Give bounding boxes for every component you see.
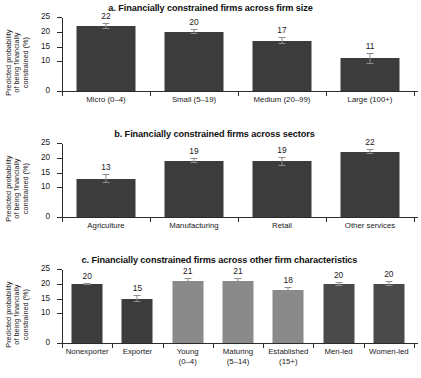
bar-value-label: 20 — [189, 17, 198, 27]
bar-value-label: 20 — [384, 269, 393, 279]
bar[interactable] — [323, 284, 354, 343]
panel-c: c. Financially constrained firms across … — [0, 252, 421, 378]
bar[interactable] — [253, 41, 312, 91]
panel-b-bars: 13191922 — [62, 144, 414, 218]
x-tick-label-line: Retail — [238, 221, 326, 231]
panel-a-y-axis-label-line-3: constrained (%) — [22, 11, 30, 115]
bar-group: 19 — [150, 143, 238, 217]
panel-b: b. Financially constrained firms across … — [0, 126, 421, 252]
panel-c-plot-area: 010152025 20152121182020 — [62, 270, 414, 344]
panel-b-y-tick-label-25: 25 — [41, 138, 50, 147]
x-tick-label-line: Other services — [326, 221, 414, 231]
bar-value-label: 17 — [277, 25, 286, 35]
bar-group: 20 — [62, 269, 112, 343]
x-tick-label-line: Small (5–19) — [150, 95, 238, 105]
bar-value-label: 21 — [233, 266, 242, 276]
error-bar — [191, 29, 198, 34]
bar[interactable] — [122, 299, 153, 343]
error-bar — [134, 295, 141, 302]
x-tick-label-line: Large (100+) — [326, 95, 414, 105]
bar[interactable] — [222, 281, 253, 343]
panel-a-y-tick-label-10: 10 — [41, 56, 50, 65]
bar[interactable] — [72, 284, 103, 343]
bar[interactable] — [165, 161, 224, 217]
bar[interactable] — [77, 179, 136, 217]
x-tick — [414, 344, 415, 348]
x-tick-label: Large (100+) — [326, 95, 414, 105]
bar-value-label: 19 — [277, 145, 286, 155]
bar-group: 20 — [313, 269, 363, 343]
panel-b-plot-area: 010152025 13191922 — [62, 144, 414, 218]
panel-c-y-tick-label-20: 20 — [41, 279, 50, 288]
error-bar — [84, 283, 91, 286]
bar-value-label: 21 — [183, 266, 192, 276]
x-tick-label-line: Exporter — [112, 347, 162, 357]
bar[interactable] — [341, 152, 400, 217]
error-bar — [103, 23, 110, 29]
panel-c-y-tick-label-0: 0 — [45, 338, 50, 347]
panel-a-plot-area: 010152025 22201711 — [62, 18, 414, 92]
x-tick-label-line: Medium (20–99) — [238, 95, 326, 105]
bar-group: 20 — [364, 269, 414, 343]
x-tick — [414, 92, 415, 96]
panel-b-y-axis-label: Predicted probability of being financial… — [5, 137, 30, 241]
panel-b-title: b. Financially constrained firms across … — [0, 129, 421, 139]
bar-value-label: 18 — [284, 275, 293, 285]
panel-a-x-tick-labels: Micro (0–4)Small (5–19)Medium (20–99)Lar… — [62, 95, 414, 125]
panel-c-bars: 20152121182020 — [62, 270, 414, 344]
x-tick-label: Small (5–19) — [150, 95, 238, 105]
panel-a: a. Financially constrained firms across … — [0, 0, 421, 126]
panel-b-y-tick-label-20: 20 — [41, 153, 50, 162]
bar[interactable] — [172, 281, 203, 343]
bar-value-label: 15 — [133, 283, 142, 293]
x-tick-label: Women-led — [364, 347, 414, 357]
error-bar — [279, 37, 286, 44]
bar-value-label: 22 — [365, 137, 374, 147]
panel-c-y-tick-label-25: 25 — [41, 264, 50, 273]
error-bar — [279, 157, 286, 166]
x-tick-label-line: Women-led — [364, 347, 414, 357]
x-tick-label-line: Established — [263, 347, 313, 357]
x-tick-label: Micro (0–4) — [62, 95, 150, 105]
panel-b-y-axis-label-line-3: constrained (%) — [22, 137, 30, 241]
bar[interactable] — [253, 161, 312, 217]
x-tick-label-line: Agriculture — [62, 221, 150, 231]
x-tick-label-line: Men-led — [313, 347, 363, 357]
bar-group: 21 — [213, 269, 263, 343]
x-tick-label: Agriculture — [62, 221, 150, 231]
panel-c-y-tick-label-10: 10 — [41, 308, 50, 317]
x-tick-label: Nonexporter — [62, 347, 112, 357]
bar-value-label: 13 — [101, 162, 110, 172]
x-tick-label: Manufacturing — [150, 221, 238, 231]
panel-c-y-axis-label-line-3: constrained (%) — [22, 263, 30, 367]
x-tick-label: Men-led — [313, 347, 363, 357]
x-tick-label: Retail — [238, 221, 326, 231]
bar-group: 18 — [263, 269, 313, 343]
panel-b-x-tick-labels: AgricultureManufacturingRetailOther serv… — [62, 221, 414, 251]
x-tick-label-line: Micro (0–4) — [62, 95, 150, 105]
bar[interactable] — [77, 26, 136, 91]
x-tick-label-line: Nonexporter — [62, 347, 112, 357]
error-bar — [184, 278, 191, 284]
panel-a-y-tick-label-0: 0 — [45, 86, 50, 95]
bar[interactable] — [273, 290, 304, 343]
error-bar — [191, 158, 198, 164]
bar-value-label: 22 — [101, 11, 110, 21]
x-tick-label: Young(0–4) — [163, 347, 213, 366]
panel-a-bars: 22201711 — [62, 18, 414, 92]
bar-group: 15 — [112, 269, 162, 343]
panel-b-y-tick-label-0: 0 — [45, 212, 50, 221]
panel-c-title: c. Financially constrained firms across … — [0, 255, 421, 265]
error-bar — [234, 278, 241, 283]
error-bar — [385, 281, 392, 286]
x-tick-label: Other services — [326, 221, 414, 231]
panel-c-y-axis-label: Predicted probability of being financial… — [5, 263, 30, 367]
x-tick-label-line: Young — [163, 347, 213, 357]
bar-value-label: 11 — [366, 41, 375, 51]
bar[interactable] — [165, 32, 224, 91]
panel-c-y-tick-label-15: 15 — [41, 294, 50, 303]
bar[interactable] — [373, 284, 404, 343]
bar-group: 20 — [150, 17, 238, 91]
bar-group: 13 — [62, 143, 150, 217]
error-bar — [367, 53, 374, 64]
